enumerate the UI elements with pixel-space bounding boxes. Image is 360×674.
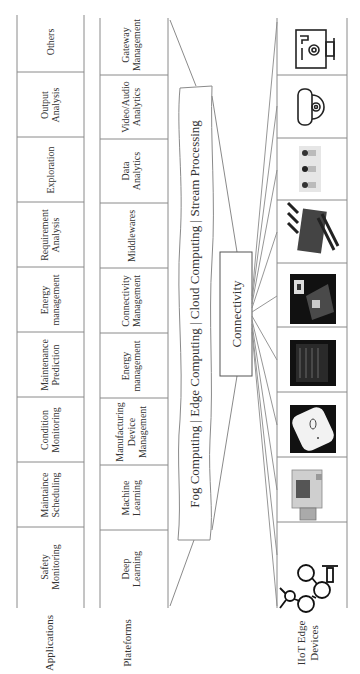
- platform-cell: management: [131, 340, 142, 391]
- platform-cell: Manufacturing: [114, 402, 125, 461]
- application-cell: Monitoring: [50, 407, 61, 453]
- platform-cell: Management: [131, 275, 142, 327]
- application-cell: Analysis: [50, 217, 61, 252]
- iiot-architecture-diagram: SafetyMonitoringMaintainceSchedulingCond…: [0, 0, 360, 674]
- platform-cell: Data: [120, 161, 131, 180]
- application-cell: Safety: [39, 554, 50, 580]
- plc-module-photo-icon: [290, 340, 336, 386]
- platform-cell: Machine: [120, 480, 131, 516]
- application-cell: Monitoring: [50, 544, 61, 590]
- application-cell: Prediction: [50, 344, 61, 385]
- platform-cell: Learning: [131, 551, 142, 587]
- industrial-sensor-photo-icon: [292, 470, 322, 520]
- cctv-cameras-photo-icon: [299, 146, 321, 192]
- platform-cell: Energy: [120, 352, 131, 381]
- wireless-router-icon: [288, 203, 338, 253]
- application-cell: Energy: [39, 286, 50, 315]
- robot-arm-icon: [280, 565, 338, 612]
- dome-camera-icon: [298, 89, 324, 125]
- applications-layer: SafetyMonitoringMaintainceSchedulingCond…: [17, 15, 84, 671]
- applications-label: Applications: [43, 615, 55, 671]
- platform-cell: Analytics: [131, 152, 142, 190]
- application-cell: Maintaince: [39, 472, 50, 518]
- computing-label: Fog Computing | Edge Computing | Cloud C…: [187, 120, 202, 508]
- platform-cell: Management: [131, 19, 142, 71]
- connectivity-label: Connectivity: [229, 280, 244, 348]
- platforms-label: Plateforms: [121, 619, 133, 667]
- platform-cell: Deep: [120, 558, 131, 579]
- devices-label-line2: Devices: [308, 625, 320, 660]
- platform-cell: Video/Audio: [120, 81, 131, 133]
- application-cell: Requirement: [39, 209, 50, 261]
- connectivity-layer: Connectivity: [212, 96, 252, 530]
- platform-cell: Device: [126, 417, 137, 446]
- application-cell: Exploration: [45, 146, 56, 193]
- platform-cell: Learning: [131, 480, 142, 516]
- application-cell: Analysis: [50, 87, 61, 122]
- application-cell: Scheduling: [50, 473, 61, 518]
- platforms-layer: DeepLearningMachineLearningManufacturing…: [100, 18, 168, 667]
- application-cell: management: [50, 274, 61, 325]
- wireless-tag-photo-icon: [290, 405, 337, 454]
- application-cell: Condition: [39, 410, 50, 450]
- platform-cell: Middlewares: [126, 210, 137, 262]
- platform-cell: Gateway: [120, 27, 131, 63]
- application-cell: Maintenance: [39, 339, 50, 391]
- devices-label-line1: IIoT Edge: [295, 621, 307, 666]
- devices-layer: IIoT Edge Devices: [277, 18, 347, 665]
- connectivity-fanout-lines: [252, 22, 277, 606]
- platform-cell: Connectivity: [120, 275, 131, 327]
- embedded-board-photo-icon: [290, 274, 336, 324]
- platform-cell: Analytics: [131, 88, 142, 126]
- application-cell: Others: [45, 29, 56, 56]
- monitoring-dashboard-gear-icon: [296, 30, 334, 68]
- application-cell: Output: [39, 91, 50, 119]
- platform-cell: Management: [137, 406, 148, 458]
